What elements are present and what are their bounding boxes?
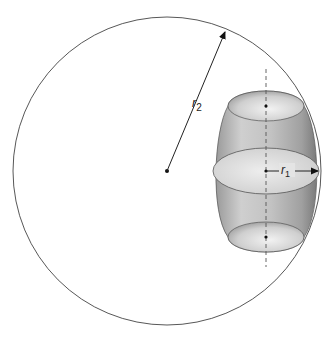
diagram-canvas: r2 r1 [0,0,332,339]
bottom-center-dot [264,235,267,238]
top-center-dot [264,104,267,107]
